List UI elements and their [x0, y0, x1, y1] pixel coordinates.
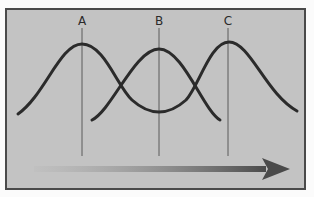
label-c: C — [224, 14, 232, 28]
arrow-shaft — [34, 166, 266, 172]
progress-arrow — [34, 158, 290, 180]
diagram-canvas: A B C — [0, 0, 314, 197]
curve-b — [92, 49, 220, 120]
label-b: B — [155, 14, 163, 28]
curve-ac — [18, 42, 297, 114]
label-a: A — [78, 14, 87, 28]
arrow-head — [262, 158, 290, 180]
